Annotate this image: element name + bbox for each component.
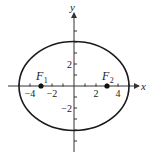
- focus-point-2: [104, 83, 109, 88]
- x-tick-label: −4: [25, 88, 36, 99]
- focus-point-1: [38, 83, 43, 88]
- x-tick-label: 2: [94, 88, 99, 99]
- y-tick-label: −2: [61, 103, 72, 114]
- x-tick-labels: −4−224: [25, 88, 121, 99]
- focus-label-2: F2: [101, 69, 114, 85]
- y-axis-label: y: [69, 1, 75, 13]
- x-tick-label: 4: [116, 88, 121, 99]
- focus-label-1: F1: [35, 69, 48, 85]
- x-axis-label: x: [140, 80, 146, 92]
- x-tick-label: −2: [47, 88, 58, 99]
- y-tick-label: 2: [67, 59, 72, 70]
- ellipse-diagram: x y −4−224 2−2 F1F2: [0, 0, 149, 155]
